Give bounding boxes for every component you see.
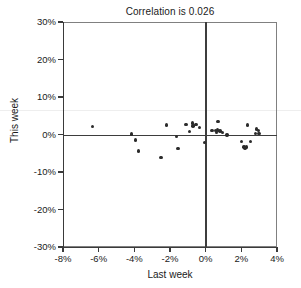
y-tick-mark xyxy=(58,171,63,172)
x-tick-label: -2% xyxy=(150,253,190,264)
x-tick-mark xyxy=(169,247,170,252)
data-point xyxy=(216,120,219,123)
y-tick-label: -30% xyxy=(0,242,56,252)
x-tick-mark xyxy=(241,247,242,252)
x-tick-label: 2% xyxy=(221,253,261,264)
data-point xyxy=(184,123,187,126)
x-axis-label: Last week xyxy=(63,269,277,280)
zero-horizontal-reference-line xyxy=(63,135,277,137)
x-tick-label: -6% xyxy=(79,253,119,264)
scatter-plot-figure: Correlation is 0.026 30%20%10%0%-10%-20%… xyxy=(0,0,301,288)
y-tick-label-text: -30% xyxy=(2,242,56,252)
y-tick-label: -10% xyxy=(0,167,56,177)
data-point xyxy=(249,140,252,143)
data-point xyxy=(176,147,179,150)
data-point xyxy=(134,138,137,141)
x-tick-mark xyxy=(276,247,277,252)
y-tick-label-text: -10% xyxy=(2,167,56,177)
x-tick-mark xyxy=(134,247,135,252)
data-point xyxy=(225,133,228,136)
data-point xyxy=(165,123,168,126)
y-tick-label-text: 30% xyxy=(2,17,56,27)
x-tick-label: 4% xyxy=(257,253,297,264)
data-point xyxy=(245,145,248,148)
data-point xyxy=(246,123,249,126)
x-tick-mark xyxy=(205,247,206,252)
chart-title: Correlation is 0.026 xyxy=(63,6,277,18)
data-point xyxy=(91,125,94,128)
y-axis-label: This week xyxy=(9,81,20,161)
y-tick-mark xyxy=(58,96,63,97)
data-point xyxy=(257,132,260,135)
x-tick-mark xyxy=(62,247,63,252)
x-tick-label: -8% xyxy=(43,253,83,264)
x-tick-mark xyxy=(98,247,99,252)
x-tick-label: -4% xyxy=(114,253,154,264)
data-point xyxy=(175,135,178,138)
y-tick-label-text: 20% xyxy=(2,55,56,65)
y-tick-label-text: -20% xyxy=(2,205,56,215)
y-tick-mark xyxy=(58,59,63,60)
zero-vertical-reference-line xyxy=(205,22,207,247)
y-tick-mark xyxy=(58,21,63,22)
y-tick-label: 20% xyxy=(0,55,56,65)
y-tick-label: -20% xyxy=(0,205,56,215)
y-tick-mark xyxy=(58,134,63,135)
y-tick-label: 30% xyxy=(0,17,56,27)
y-tick-mark xyxy=(58,209,63,210)
x-tick-label: 0% xyxy=(186,253,226,264)
